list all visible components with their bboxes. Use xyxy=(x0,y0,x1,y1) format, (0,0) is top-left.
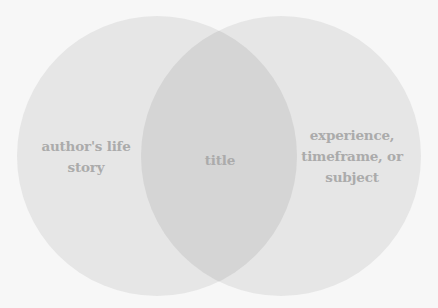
intersection-label-line-1: title xyxy=(190,150,250,171)
right-label-line-2: timeframe, or xyxy=(296,146,408,167)
left-label-line-2: story xyxy=(30,157,142,178)
intersection-label: title xyxy=(190,150,250,171)
right-circle-label: experience, timeframe, or subject xyxy=(296,125,408,188)
left-label-line-1: author's life xyxy=(30,136,142,157)
right-label-line-1: experience, xyxy=(296,125,408,146)
right-label-line-3: subject xyxy=(296,167,408,188)
left-circle-label: author's life story xyxy=(30,136,142,178)
